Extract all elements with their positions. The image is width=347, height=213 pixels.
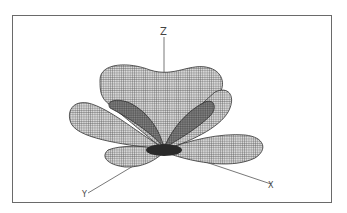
- y-axis-label: Y: [81, 190, 87, 199]
- wireframe-plot: Z Y X: [0, 0, 347, 213]
- center-core: [146, 144, 182, 156]
- x-axis-label: X: [268, 181, 274, 190]
- z-axis-label: Z: [160, 26, 167, 37]
